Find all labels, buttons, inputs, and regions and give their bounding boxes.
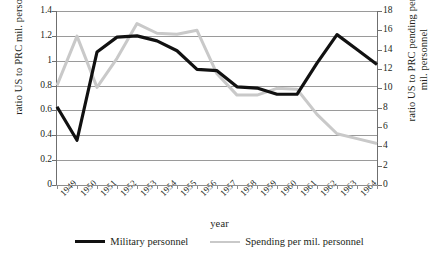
- y-tick-mark-right: [378, 166, 382, 167]
- y-tick-label-left: 0.2: [40, 154, 52, 164]
- y-tick-label-right: 18: [383, 5, 393, 15]
- y-tick-mark-right: [378, 11, 382, 12]
- legend-item[interactable]: Spending per mil. personnel: [210, 236, 363, 247]
- y-tick-label-left: 1.4: [40, 5, 52, 15]
- x-axis-title: year: [0, 218, 439, 230]
- y-tick-label-right: 16: [383, 24, 393, 34]
- y-tick-mark-right: [378, 50, 382, 51]
- legend-swatch-icon: [75, 240, 105, 243]
- plot-area: 00.20.40.60.811.21.4 024681012141618 194…: [57, 11, 377, 185]
- y-tick-label-right: 12: [383, 63, 393, 73]
- y-tick-label-right: 10: [383, 82, 393, 92]
- legend-label: Military personnel: [110, 236, 188, 247]
- series-line: [57, 24, 377, 144]
- y-tick-mark-right: [378, 185, 382, 186]
- chart-container: ratio US to PRC mil. personnel ratio US …: [0, 0, 439, 257]
- y-tick-label-right: 6: [383, 121, 388, 131]
- series-lines: [57, 11, 378, 186]
- y-tick-label-left: 0.8: [40, 80, 52, 90]
- y-tick-mark-right: [378, 88, 382, 89]
- y-tick-label-right: 8: [383, 102, 388, 112]
- y-tick-mark-right: [378, 30, 382, 31]
- y-tick-label-left: 0.6: [40, 104, 52, 114]
- legend-item[interactable]: Military personnel: [75, 236, 188, 247]
- y-tick-label-right: 14: [383, 44, 393, 54]
- y-tick-label-left: 1: [47, 55, 52, 65]
- y-tick-label-left: 0: [47, 179, 52, 189]
- y-tick-label-left: 0.4: [40, 129, 52, 139]
- y-axis-right-title: ratio US to PRC pending per mil. personn…: [406, 0, 429, 125]
- y-tick-mark-right: [378, 69, 382, 70]
- y-tick-mark-right: [378, 127, 382, 128]
- legend-swatch-icon: [210, 241, 240, 243]
- y-tick-label-right: 2: [383, 160, 388, 170]
- y-tick-label-left: 1.2: [40, 30, 52, 40]
- y-axis-left-title: ratio US to PRC mil. personnel: [13, 0, 25, 115]
- y-tick-mark-right: [378, 108, 382, 109]
- chart-legend: Military personnelSpending per mil. pers…: [0, 236, 439, 247]
- y-tick-label-right: 0: [383, 179, 388, 189]
- legend-label: Spending per mil. personnel: [245, 236, 363, 247]
- y-tick-mark-right: [378, 146, 382, 147]
- y-tick-label-right: 4: [383, 140, 388, 150]
